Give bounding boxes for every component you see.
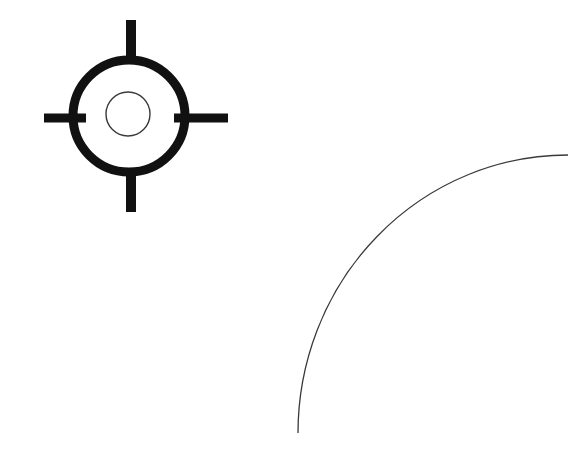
drawing-canvas (0, 0, 586, 450)
survey-marker-symbol (44, 20, 228, 212)
inner-circle-icon (106, 92, 150, 136)
outer-ring-icon (73, 60, 185, 172)
drawing-surface (0, 0, 586, 450)
quarter-arc-curve (298, 155, 568, 433)
